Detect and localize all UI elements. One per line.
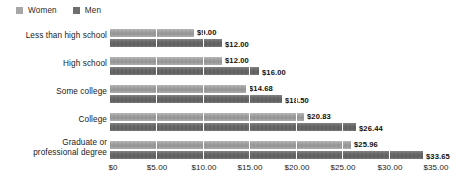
x-tick-label-25: $25.00 bbox=[330, 163, 355, 172]
value-label-men-less-than-high-school: $12.00 bbox=[225, 41, 249, 49]
x-tick-label-15: $15.00 bbox=[237, 163, 262, 172]
gridline-15 bbox=[249, 29, 250, 159]
value-label-men-high-school: $16.00 bbox=[262, 69, 286, 77]
x-tick-label-5: $5.00 bbox=[147, 163, 168, 172]
category-label-college: College bbox=[0, 115, 107, 125]
value-label-women-college: $20.83 bbox=[307, 113, 331, 121]
bar-women-less-than-high-school bbox=[110, 29, 194, 37]
value-label-women-less-than-high-school: $9.00 bbox=[197, 29, 217, 37]
category-label-less-than-high-school: Less than high school bbox=[0, 31, 107, 41]
bar-women-some-college bbox=[110, 85, 246, 93]
gridline-10 bbox=[203, 29, 204, 159]
bar-chart: Women Men Less than high school $9.00 $1… bbox=[0, 0, 459, 179]
gridline-30 bbox=[389, 29, 390, 159]
bar-women-college bbox=[110, 113, 304, 121]
bar-women-high-school bbox=[110, 57, 222, 65]
gridline-5 bbox=[156, 29, 157, 159]
gridline-25 bbox=[342, 29, 343, 159]
gridline-20 bbox=[296, 29, 297, 159]
value-label-men-college: $26.44 bbox=[359, 125, 383, 133]
bar-women-graduate-or-professional-degree bbox=[110, 141, 351, 149]
x-tick-label-20: $20.00 bbox=[284, 163, 309, 172]
x-tick-label-35: $35.00 bbox=[423, 163, 448, 172]
category-label-high-school: High school bbox=[0, 59, 107, 69]
bar-men-high-school bbox=[110, 67, 259, 75]
plot-area: Less than high school $9.00 $12.00 High … bbox=[0, 0, 459, 179]
category-label-some-college: Some college bbox=[0, 87, 107, 97]
bar-men-some-college bbox=[110, 95, 282, 103]
value-label-men-graduate-or-professional-degree: $33.65 bbox=[426, 153, 450, 161]
x-tick-label-0: $0 bbox=[108, 163, 117, 172]
x-tick-label-30: $30.00 bbox=[377, 163, 402, 172]
value-label-women-some-college: $14.68 bbox=[249, 85, 273, 93]
x-tick-label-10: $10.00 bbox=[191, 163, 216, 172]
value-label-women-high-school: $12.00 bbox=[225, 57, 249, 65]
bar-men-less-than-high-school bbox=[110, 39, 222, 47]
category-label-graduate-or-professional-degree: Graduate or professional degree bbox=[0, 138, 107, 157]
value-label-women-graduate-or-professional-degree: $25.96 bbox=[354, 141, 378, 149]
bar-men-college bbox=[110, 123, 356, 131]
